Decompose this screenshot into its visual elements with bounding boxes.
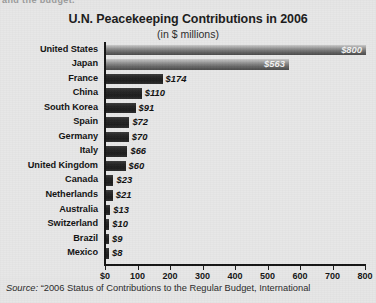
bar-row: Mexico$8 — [0, 246, 376, 261]
bar-value-label: $72 — [132, 116, 148, 127]
bar-row: Brazil$9 — [0, 232, 376, 247]
category-label: Netherlands — [0, 189, 98, 199]
bar-value-label: $21 — [116, 189, 132, 200]
x-tick — [170, 266, 171, 270]
x-tick-label: 600 — [292, 271, 307, 281]
bar-value-label: $8 — [112, 247, 122, 258]
bar-value-label: $174 — [166, 73, 187, 84]
bar — [106, 146, 127, 157]
bar — [106, 59, 289, 70]
chart-figure: U.N. Peacekeeping Contributions in 2006 … — [0, 9, 376, 277]
x-tick — [138, 266, 139, 270]
bar — [106, 219, 109, 230]
clipped-top-text: and the budget. — [2, 0, 376, 5]
category-label: Germany — [0, 131, 98, 141]
bar-row: Italy$66 — [0, 144, 376, 159]
bar-value-label: $66 — [130, 145, 146, 156]
category-label: Italy — [0, 145, 98, 155]
category-label: France — [0, 73, 98, 83]
category-label: South Korea — [0, 102, 98, 112]
bar-row: Germany$70 — [0, 130, 376, 145]
plot-area: United States$800Japan$563France$174Chin… — [0, 42, 376, 264]
bar-row: France$174 — [0, 72, 376, 87]
bar-row: Spain$72 — [0, 115, 376, 130]
x-tick-label: 400 — [227, 271, 242, 281]
bar-value-label: $110 — [145, 87, 165, 98]
bar-value-label: $10 — [112, 218, 128, 229]
bar-value-label: $563 — [264, 58, 285, 69]
bar-value-label: $13 — [113, 204, 129, 215]
bar — [106, 45, 366, 56]
bar — [106, 132, 129, 143]
x-tick — [203, 266, 204, 270]
source-text: “2006 Status of Contributions to the Reg… — [41, 283, 311, 293]
bar — [106, 234, 109, 245]
x-tick — [268, 266, 269, 270]
x-tick — [300, 266, 301, 270]
bar — [106, 248, 109, 259]
x-tick-label: 300 — [195, 271, 210, 281]
category-label: Mexico — [0, 247, 98, 257]
bar — [106, 117, 129, 128]
category-label: China — [0, 87, 98, 97]
category-label: Canada — [0, 174, 98, 184]
x-tick-label: 200 — [162, 271, 177, 281]
bar — [106, 205, 110, 216]
chart-subtitle: (in $ millions) — [0, 28, 376, 40]
bar-row: Australia$13 — [0, 203, 376, 218]
bar — [106, 175, 113, 186]
clipped-page-text-above: and the budget. — [0, 0, 376, 9]
x-tick-label: $0 — [100, 271, 110, 281]
bar — [106, 103, 136, 114]
bar — [106, 161, 126, 172]
bar-row: Japan$563 — [0, 57, 376, 72]
bar-value-label: $60 — [129, 160, 145, 171]
bar-value-label: $91 — [139, 102, 155, 113]
bar-row: Canada$23 — [0, 173, 376, 188]
category-label: Brazil — [0, 233, 98, 243]
category-label: United States — [0, 44, 98, 54]
bar-row: United States$800 — [0, 43, 376, 58]
x-tick-label: 500 — [260, 271, 275, 281]
x-tick — [105, 266, 106, 270]
x-tick-label: 800 — [357, 271, 372, 281]
category-label: Switzerland — [0, 218, 98, 228]
bar-row: South Korea$91 — [0, 101, 376, 116]
bar — [106, 88, 142, 99]
category-label: Japan — [0, 58, 98, 68]
bar-row: Switzerland$10 — [0, 217, 376, 232]
source-label: Source: — [6, 283, 38, 293]
bar — [106, 190, 113, 201]
category-label: Spain — [0, 116, 98, 126]
bar-value-label: $800 — [341, 44, 362, 55]
chart-title: U.N. Peacekeeping Contributions in 2006 — [0, 12, 376, 26]
source-note: Source: “2006 Status of Contributions to… — [6, 283, 376, 293]
bar-row: China$110 — [0, 86, 376, 101]
x-tick-label: 100 — [130, 271, 145, 281]
x-tick — [365, 266, 366, 270]
bar — [106, 74, 163, 85]
category-label: Australia — [0, 204, 98, 214]
bar-value-label: $9 — [112, 233, 122, 244]
bar-row: United Kingdom$60 — [0, 159, 376, 174]
bar-row: Netherlands$21 — [0, 188, 376, 203]
bar-value-label: $70 — [132, 131, 148, 142]
x-tick-label: 700 — [325, 271, 340, 281]
x-tick — [235, 266, 236, 270]
category-label: United Kingdom — [0, 160, 98, 170]
x-tick — [333, 266, 334, 270]
bar-value-label: $23 — [116, 174, 132, 185]
